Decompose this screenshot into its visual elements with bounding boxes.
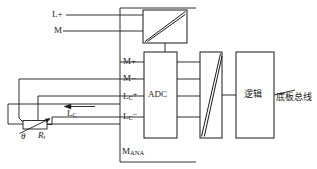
terminal-label-m-plus: M+	[123, 57, 136, 66]
schematic-diagram: L+ M M+ M− LC+ LC− ADC 逻辑 底板总线 MANA LC θ…	[0, 0, 317, 169]
backplane-bus-label: 底板总线	[276, 93, 312, 102]
theta-label: θ	[21, 132, 25, 141]
lc-minus-superscript: −	[133, 110, 138, 119]
terminal-label-l-plus: L+	[52, 10, 63, 19]
adc-block-label: ADC	[148, 90, 167, 99]
current-label-lc: LC	[67, 109, 77, 119]
wire-field-lc-plus	[38, 96, 120, 124]
m-ana-base: M	[122, 146, 130, 156]
terminal-label-m: M	[54, 26, 62, 35]
m-ana-subscript: ANA	[130, 149, 144, 156]
analog-ground-label: MANA	[122, 147, 144, 157]
terminal-label-m-minus: M−	[123, 74, 136, 83]
rt-label: Rt	[38, 131, 45, 141]
terminal-label-lc-minus: LC−	[123, 111, 137, 122]
lc-plus-superscript: +	[133, 90, 138, 99]
schematic-canvas	[0, 0, 317, 169]
logic-block-label: 逻辑	[244, 90, 262, 99]
rt-subscript: t	[44, 133, 46, 140]
terminal-label-lc-plus: LC+	[123, 91, 137, 102]
lc-current-subscript: C	[73, 111, 77, 118]
